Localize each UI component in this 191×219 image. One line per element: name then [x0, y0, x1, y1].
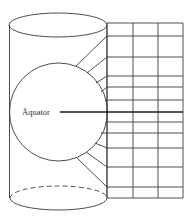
cylindrical-projection-diagram: Äquator [0, 0, 191, 219]
projection-line [95, 143, 107, 148]
cylinder-bottom-front-arc [10, 198, 107, 210]
projection-line [86, 152, 107, 167]
cylinder-top-ellipse [9, 13, 107, 37]
projection-line [76, 36, 107, 66]
projection-line [87, 57, 107, 73]
projection-line [96, 76, 107, 83]
projection-grid [107, 23, 183, 198]
equator-label: Äquator [22, 107, 50, 117]
projection-line [77, 158, 107, 187]
cylinder-bottom-back-arc-dashed [10, 186, 107, 198]
